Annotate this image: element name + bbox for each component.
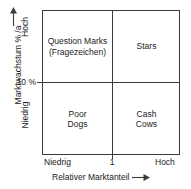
arrow-right-icon [132,173,150,182]
x-axis-tick-label-middle: 1 [105,157,119,167]
y-axis-tick-label-low: Niedrig [20,92,30,138]
quadrant-cash-cows: Cash Cows [113,83,180,155]
quadrant-stars: Stars [113,11,180,82]
y-axis-tick-label-middle: 10 % [2,77,36,87]
y-axis-tick-mark-middle [37,82,42,83]
quadrant-poor-dogs-line1: Poor [69,109,87,120]
quadrant-stars-line1: Stars [137,41,157,52]
quadrant-cash-cows-line2: Cows [136,119,157,130]
quadrant-question-marks: Question Marks (Fragezeichen) [43,11,112,82]
y-axis-tick-label-high: Hoch [20,7,30,47]
x-axis-tick-label-low: Niedrig [44,157,71,167]
quadrant-poor-dogs-line2: Dogs [68,119,88,130]
quadrant-question-marks-line1: Question Marks [48,36,108,47]
bcg-matrix-diagram: Question Marks (Fragezeichen) Stars Poor… [0,0,191,189]
x-axis-title: Relativer Marktanteil [52,172,129,182]
x-axis-tick-label-high: Hoch [155,157,175,167]
quadrant-poor-dogs: Poor Dogs [43,83,112,155]
quadrant-cash-cows-line1: Cash [137,109,157,120]
quadrant-question-marks-line2: (Fragezeichen) [49,47,106,58]
x-axis-title-group: Relativer Marktanteil [52,172,188,182]
